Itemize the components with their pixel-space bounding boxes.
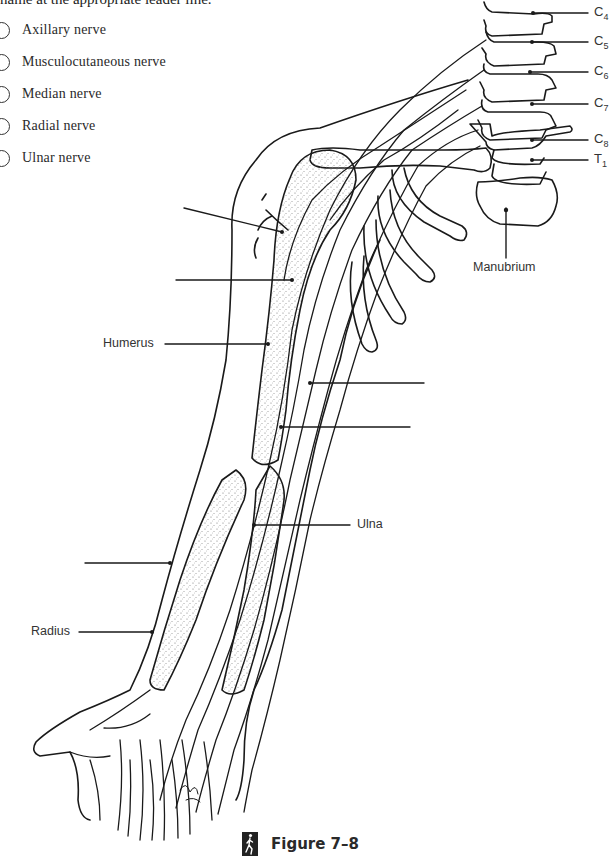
label-vertebra-c8: C8 bbox=[594, 131, 608, 149]
figure-caption-text: Figure 7–8 bbox=[271, 835, 359, 853]
ribs bbox=[350, 168, 466, 352]
arm-outline bbox=[34, 80, 468, 820]
artist-signature bbox=[180, 785, 200, 802]
label-manubrium: Manubrium bbox=[473, 260, 536, 274]
label-humerus: Humerus bbox=[103, 336, 154, 350]
label-vertebra-c4: C4 bbox=[594, 4, 608, 22]
label-vertebra-t1: T1 bbox=[594, 151, 607, 169]
label-vertebra-c5: C5 bbox=[594, 33, 608, 51]
humerus-bone bbox=[252, 150, 356, 465]
label-vertebra-c6: C6 bbox=[594, 63, 608, 81]
label-ulna: Ulna bbox=[357, 517, 383, 531]
leader-lines bbox=[79, 13, 588, 632]
label-vertebra-c7: C7 bbox=[594, 95, 608, 113]
hand-fingers bbox=[70, 690, 212, 840]
arm-nerve-illustration bbox=[0, 0, 615, 862]
label-radius: Radius bbox=[31, 624, 70, 638]
figure-caption: Figure 7–8 bbox=[242, 832, 359, 856]
cervical-vertebrae bbox=[470, 2, 572, 184]
walking-figure-icon bbox=[242, 832, 258, 856]
